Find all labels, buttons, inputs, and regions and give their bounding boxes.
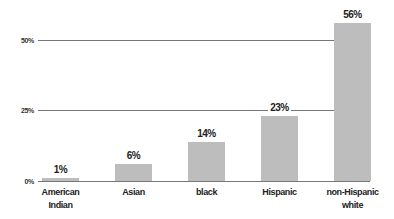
bar-chart: 50% 25% 0% 1%AmericanIndian6%Asian14%bla… (0, 0, 394, 219)
value-label: 14% (182, 128, 232, 139)
value-label: 23% (255, 102, 305, 113)
bar (261, 116, 298, 181)
ytick-label: 25% (0, 107, 34, 114)
bar (188, 142, 225, 181)
ytick-label: 0% (0, 178, 34, 185)
ytick-label: 50% (0, 37, 34, 44)
bar (42, 178, 79, 181)
bar (334, 23, 371, 181)
category-label: non-Hispanicwhite (318, 186, 388, 212)
gridline-25 (38, 110, 370, 111)
value-label: 6% (109, 150, 159, 161)
bar (115, 164, 152, 181)
category-label: Hispanic (245, 186, 315, 199)
category-label: black (172, 186, 242, 199)
gridline-50 (38, 40, 370, 41)
category-label: Asian (99, 186, 169, 199)
value-label: 56% (328, 9, 378, 20)
x-axis-baseline (38, 181, 370, 182)
category-label: AmericanIndian (26, 186, 96, 212)
value-label: 1% (36, 164, 86, 175)
